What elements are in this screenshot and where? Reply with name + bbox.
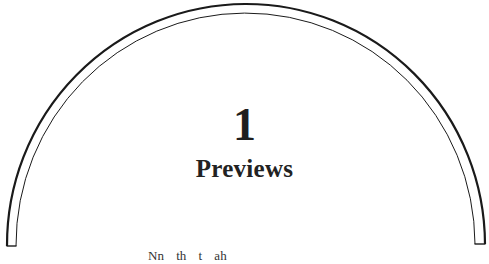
chapter-title: Previews bbox=[0, 154, 489, 184]
truncated-body-text: Nn th t ah bbox=[148, 248, 227, 264]
chapter-number: 1 bbox=[0, 100, 489, 150]
